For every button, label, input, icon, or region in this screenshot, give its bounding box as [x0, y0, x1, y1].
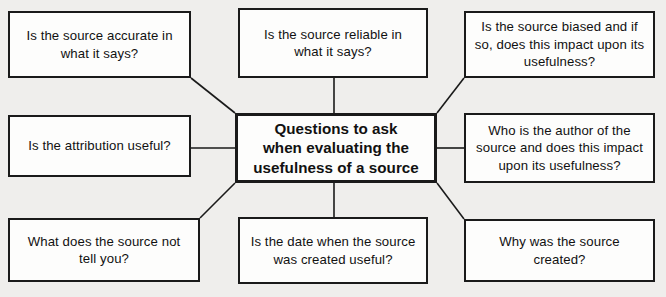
connector-center-top-right [437, 78, 464, 113]
node-bottom-center-label: Is the date when the source was created … [248, 233, 418, 268]
node-top-center-label: Is the source reliable in what it says? [248, 26, 418, 61]
node-center[interactable]: Questions to ask when evaluating the use… [235, 113, 437, 183]
connector-center-bottom-left [200, 183, 235, 218]
node-middle-left[interactable]: Is the attribution useful? [8, 115, 191, 177]
node-top-right-label: Is the source biased and if so, does thi… [474, 18, 645, 70]
node-top-left[interactable]: Is the source accurate in what it says? [8, 11, 191, 78]
node-middle-right-label: Who is the author of the source and does… [474, 122, 645, 174]
node-bottom-left[interactable]: What does the source not tell you? [8, 218, 200, 282]
connector-center-bottom-right [437, 183, 464, 219]
node-top-right[interactable]: Is the source biased and if so, does thi… [464, 11, 655, 78]
diagram-canvas: Is the source accurate in what it says? … [0, 0, 666, 297]
node-bottom-right-label: Why was the source created? [474, 233, 645, 268]
node-bottom-left-label: What does the source not tell you? [18, 233, 190, 268]
node-bottom-center[interactable]: Is the date when the source was created … [238, 217, 428, 284]
node-top-center[interactable]: Is the source reliable in what it says? [238, 8, 428, 78]
node-center-label: Questions to ask when evaluating the use… [246, 119, 426, 176]
node-top-left-label: Is the source accurate in what it says? [18, 27, 181, 62]
node-middle-right[interactable]: Who is the author of the source and does… [464, 113, 655, 183]
connector-center-top-left [191, 78, 235, 113]
node-middle-left-label: Is the attribution useful? [18, 137, 181, 154]
node-bottom-right[interactable]: Why was the source created? [464, 219, 655, 282]
